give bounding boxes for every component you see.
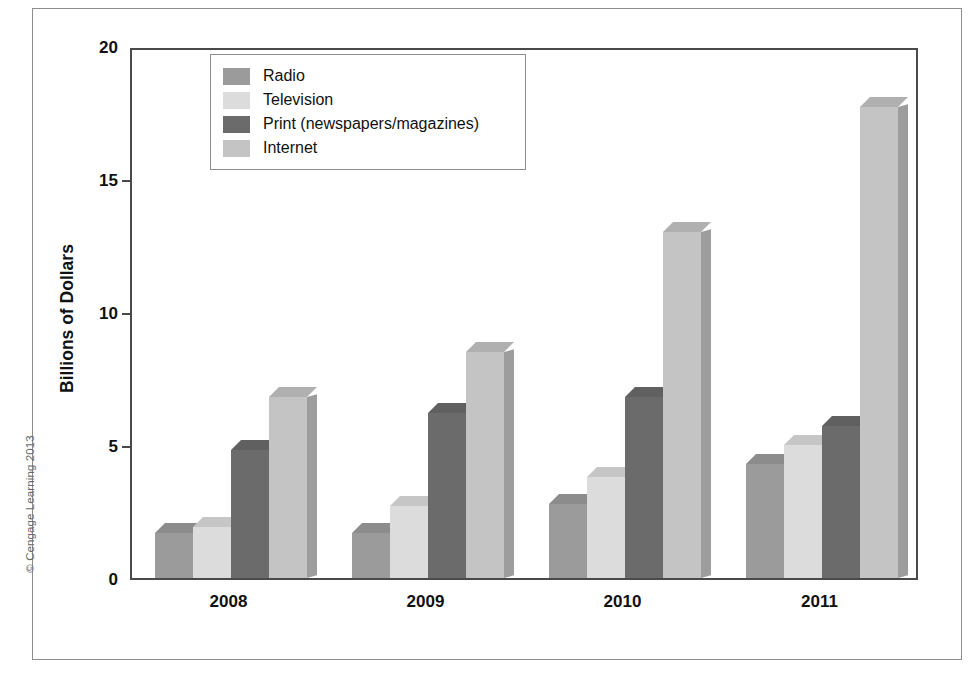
- bar-2009-television: [390, 506, 428, 578]
- bar-front-face: [784, 445, 822, 578]
- legend-swatch-icon: [223, 68, 250, 85]
- bar-front-face: [822, 426, 860, 578]
- y-tick-label-10: 10: [64, 304, 118, 324]
- legend-swatch-icon: [223, 92, 250, 109]
- bar-front-face: [428, 413, 466, 578]
- bar-front-face: [549, 504, 587, 578]
- bar-front-face: [466, 352, 504, 578]
- bar-front-face: [860, 107, 898, 578]
- bar-2009-internet: [466, 352, 504, 578]
- bar-front-face: [352, 533, 390, 578]
- x-tick-label-2009: 2009: [407, 592, 445, 612]
- bar-2008-radio: [155, 533, 193, 578]
- figure-root: © Cengage Learning 2013 Billions of Doll…: [0, 0, 973, 674]
- y-tick-label-5: 5: [64, 437, 118, 457]
- chart-legend: RadioTelevisionPrint (newspapers/magazin…: [210, 54, 526, 170]
- bar-front-face: [587, 477, 625, 578]
- bar-2011-print-newspapers-magazines: [822, 426, 860, 578]
- legend-label: Internet: [263, 140, 317, 156]
- legend-swatch-icon: [223, 116, 250, 133]
- bar-2009-print-newspapers-magazines: [428, 413, 466, 578]
- legend-item: Internet: [223, 136, 513, 160]
- legend-label: Television: [263, 92, 333, 108]
- copyright-notice: © Cengage Learning 2013: [24, 429, 36, 579]
- x-tick-label-2011: 2011: [801, 592, 838, 612]
- bar-front-face: [155, 533, 193, 578]
- bar-2010-print-newspapers-magazines: [625, 397, 663, 578]
- bar-front-face: [663, 232, 701, 578]
- y-tick-label-20: 20: [64, 38, 118, 58]
- bar-2008-print-newspapers-magazines: [231, 450, 269, 578]
- y-tick-label-0: 0: [64, 570, 118, 590]
- legend-swatch-icon: [223, 140, 250, 157]
- legend-label: Print (newspapers/magazines): [263, 116, 479, 132]
- bar-2010-internet: [663, 232, 701, 578]
- bar-side-face: [504, 349, 514, 578]
- bar-2011-internet: [860, 107, 898, 578]
- bar-2010-radio: [549, 504, 587, 578]
- bar-2008-television: [193, 527, 231, 578]
- bar-2010-television: [587, 477, 625, 578]
- bar-front-face: [231, 450, 269, 578]
- bar-side-face: [898, 105, 908, 578]
- bar-2008-internet: [269, 397, 307, 578]
- legend-item: Radio: [223, 64, 513, 88]
- legend-item: Print (newspapers/magazines): [223, 112, 513, 136]
- legend-item: Television: [223, 88, 513, 112]
- bar-front-face: [390, 506, 428, 578]
- bar-front-face: [193, 527, 231, 578]
- x-tick-label-2010: 2010: [604, 592, 642, 612]
- legend-label: Radio: [263, 68, 305, 84]
- bar-2009-radio: [352, 533, 390, 578]
- bar-2011-radio: [746, 464, 784, 578]
- bar-front-face: [269, 397, 307, 578]
- bar-front-face: [625, 397, 663, 578]
- bar-front-face: [746, 464, 784, 578]
- bar-side-face: [307, 394, 317, 578]
- bar-2011-television: [784, 445, 822, 578]
- y-tick-label-15: 15: [64, 171, 118, 191]
- bar-side-face: [701, 230, 711, 578]
- x-tick-label-2008: 2008: [210, 592, 248, 612]
